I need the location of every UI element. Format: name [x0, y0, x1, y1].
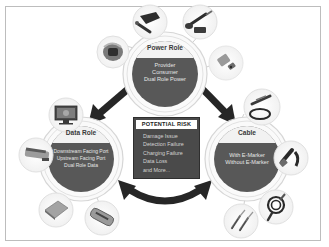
wall-charger-icon — [97, 36, 129, 68]
cable-with-emarker: With E-Marker — [212, 152, 282, 159]
laptop-icon — [39, 193, 73, 227]
power-role-provider: Provider — [132, 62, 198, 69]
cable-title: Cable — [217, 129, 277, 137]
monitor-icon — [49, 98, 83, 132]
power-bank-icon — [15, 144, 17, 146]
potential-risk-box: POTENTIAL RISK Damage Issue Detection Fa… — [133, 117, 200, 179]
data-role-lines: Downstream Facing Port Upstream Facing P… — [46, 148, 116, 170]
usb-cable-icon — [183, 5, 217, 39]
power-role-consumer: Consumer — [132, 69, 198, 76]
car-charger-icon — [133, 5, 167, 39]
risk-item: Detection Failure — [143, 140, 184, 148]
data-role-drd: Dual Role Data — [46, 162, 116, 169]
coiled-cable-icon — [244, 89, 280, 125]
data-role-title: Data Role — [51, 129, 111, 137]
usb-hub-icon — [85, 201, 119, 235]
risk-item: Data Loss — [143, 157, 184, 165]
potential-risk-title: POTENTIAL RISK — [136, 120, 197, 129]
power-adapter-icon — [209, 46, 243, 80]
power-role-dual: Dual Role Power — [132, 76, 198, 83]
power-role-lines: Provider Consumer Dual Role Power — [132, 62, 198, 84]
cable-without-emarker: Without E-Marker — [212, 159, 282, 166]
usb-c-plugs-icon — [224, 204, 258, 238]
risk-item: and More... — [143, 166, 184, 174]
cable-lines: With E-Marker Without E-Marker — [212, 152, 282, 166]
arrow-data-cable — [118, 180, 212, 201]
risk-item: Damage Issue — [143, 132, 184, 140]
data-role-dfp: Downstream Facing Port — [46, 148, 116, 155]
data-role-ufp: Upstream Facing Port — [46, 155, 116, 162]
potential-risk-list: Damage Issue Detection Failure Charging … — [143, 132, 184, 174]
cable-reel-icon — [259, 190, 293, 224]
power-role-title: Power Role — [135, 44, 195, 52]
risk-item: Charging Failure — [143, 149, 184, 157]
